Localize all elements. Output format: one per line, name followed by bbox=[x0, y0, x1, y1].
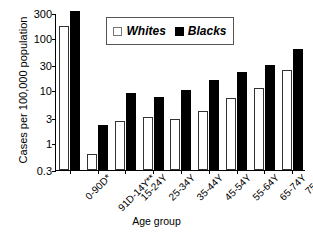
legend-entry-blacks: Blacks bbox=[175, 25, 227, 37]
y-axis-tick-mark bbox=[52, 91, 56, 92]
bar-group bbox=[56, 14, 84, 170]
bar-whites-5 bbox=[198, 111, 208, 170]
bar-blacks-6 bbox=[237, 72, 247, 170]
bar-whites-8 bbox=[282, 70, 292, 170]
open-square-icon bbox=[113, 27, 122, 36]
bar-group bbox=[250, 14, 278, 170]
y-axis-tick-label: 0.3 bbox=[37, 166, 52, 177]
x-axis-title: Age group bbox=[0, 216, 313, 227]
bar-group bbox=[278, 14, 306, 170]
y-axis-tick-mark bbox=[52, 119, 56, 120]
x-axis-tick-label: 45-54Y bbox=[222, 172, 253, 203]
bar-whites-4 bbox=[170, 119, 180, 170]
x-axis-tick-label: 55-64Y bbox=[250, 172, 281, 203]
y-axis-tick-mark bbox=[52, 66, 56, 67]
bar-blacks-0 bbox=[70, 11, 80, 170]
y-axis-tick-mark bbox=[52, 14, 56, 15]
bar-blacks-3 bbox=[154, 97, 164, 170]
bar-chart: Cases per 100,000 population 0.313103010… bbox=[0, 0, 313, 240]
bar-whites-1 bbox=[87, 154, 97, 170]
bar-whites-3 bbox=[143, 117, 153, 170]
y-axis-tick-mark bbox=[52, 144, 56, 145]
y-axis-tick-label: 10 bbox=[40, 86, 52, 97]
y-axis-tick-label: 30 bbox=[40, 61, 52, 72]
legend-label-whites: Whites bbox=[126, 25, 165, 37]
chart-legend: Whites Blacks bbox=[106, 17, 234, 45]
x-axis-tick-label: 35-44Y bbox=[194, 172, 225, 203]
legend-entry-whites: Whites bbox=[113, 25, 165, 37]
bar-blacks-1 bbox=[98, 125, 108, 170]
bar-blacks-5 bbox=[209, 80, 219, 170]
bar-blacks-2 bbox=[126, 93, 136, 170]
bar-whites-7 bbox=[254, 88, 264, 170]
bar-blacks-4 bbox=[181, 90, 191, 170]
bar-whites-2 bbox=[115, 121, 125, 170]
bar-whites-0 bbox=[59, 26, 69, 170]
y-axis-tick-label: 100 bbox=[34, 33, 52, 44]
bar-blacks-8 bbox=[293, 49, 303, 170]
filled-square-icon bbox=[175, 27, 184, 36]
x-axis-tick-label: 0-90D* bbox=[83, 172, 113, 202]
y-axis-tick-label: 300 bbox=[34, 9, 52, 20]
x-axis-tick-label: 25-34Y bbox=[167, 172, 198, 203]
bar-blacks-7 bbox=[265, 65, 275, 170]
y-axis-tick-labels: 0.3131030100300 bbox=[22, 0, 52, 240]
x-axis-tick-labels: 0-90D*91D-14Y**15-24Y25-34Y35-44Y45-54Y5… bbox=[55, 172, 305, 218]
y-axis-tick-mark bbox=[52, 39, 56, 40]
bar-whites-6 bbox=[226, 98, 236, 170]
legend-label-blacks: Blacks bbox=[188, 25, 227, 37]
